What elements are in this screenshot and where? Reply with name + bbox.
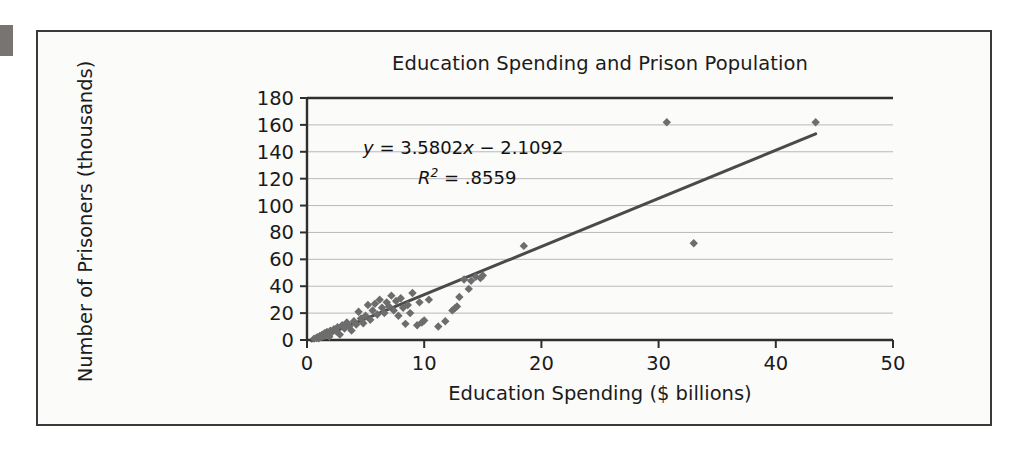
r-squared-annotation: R2 = .8559 (418, 166, 516, 188)
chart-title: Education Spending and Prison Population (307, 52, 893, 75)
page-edge-tab (0, 25, 13, 56)
y-tick-label: 140 (236, 143, 294, 163)
figure-page: Education Spending and Prison Population… (0, 0, 1016, 450)
y-tick-label: 0 (236, 331, 294, 351)
x-tick-label: 40 (751, 354, 801, 374)
x-tick-label: 30 (634, 354, 684, 374)
x-tick-label: 50 (868, 354, 918, 374)
y-tick-label: 20 (236, 304, 294, 324)
x-axis-title: Education Spending ($ billions) (307, 382, 893, 405)
y-axis-title: Number of Prisoners (thousands) (74, 57, 97, 387)
y-tick-label: 160 (236, 116, 294, 136)
y-tick-label: 80 (236, 223, 294, 243)
x-tick-label: 20 (516, 354, 566, 374)
figure-frame (36, 30, 992, 426)
x-tick-label: 0 (282, 354, 332, 374)
x-tick-label: 10 (399, 354, 449, 374)
y-tick-label: 180 (236, 89, 294, 109)
y-tick-label: 40 (236, 277, 294, 297)
y-tick-label: 100 (236, 197, 294, 217)
regression-equation-annotation: y = 3.5802x − 2.1092 (363, 137, 563, 158)
y-tick-label: 60 (236, 250, 294, 270)
y-tick-label: 120 (236, 170, 294, 190)
